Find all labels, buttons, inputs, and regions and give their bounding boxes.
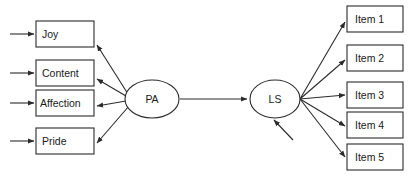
path-diagram-canvas: Joy Content Affection Pride PA LS Item 1: [0, 0, 415, 177]
indicator-box-item-1[interactable]: Item 1: [347, 6, 403, 32]
indicator-box-pride[interactable]: Pride: [36, 128, 94, 154]
loading-arrow-pa-pride: [97, 106, 129, 143]
latent-label-ls: LS: [269, 93, 282, 105]
latent-node-pa[interactable]: PA: [125, 80, 179, 118]
loading-arrow-pa-affection: [97, 101, 126, 106]
indicator-box-item-5[interactable]: Item 5: [347, 144, 403, 170]
indicator-box-item-3[interactable]: Item 3: [347, 82, 403, 108]
indicator-box-item-2[interactable]: Item 2: [347, 45, 403, 71]
indicator-label-affection: Affection: [40, 97, 81, 109]
indicator-label-item-2: Item 2: [355, 52, 384, 64]
loading-arrow-pa-joy: [97, 45, 128, 94]
disturbance-arrow-ls: [274, 120, 293, 140]
indicator-label-item-4: Item 4: [355, 119, 384, 131]
indicator-label-item-3: Item 3: [355, 89, 384, 101]
loading-arrow-ls-item-4: [300, 99, 345, 126]
indicator-box-affection[interactable]: Affection: [36, 90, 94, 116]
indicator-box-item-4[interactable]: Item 4: [347, 112, 403, 138]
indicator-label-content: Content: [42, 67, 79, 79]
error-arrow-group-left: [10, 34, 34, 141]
indicator-label-joy: Joy: [42, 28, 59, 40]
loading-arrow-pa-content: [97, 79, 126, 96]
loading-arrow-ls-item-5: [300, 99, 345, 157]
latent-label-pa: PA: [145, 93, 158, 105]
indicator-label-item-5: Item 5: [355, 151, 384, 163]
indicator-label-pride: Pride: [42, 135, 67, 147]
latent-node-ls[interactable]: LS: [250, 80, 300, 118]
indicator-box-joy[interactable]: Joy: [36, 21, 94, 47]
loading-arrow-ls-item-3: [300, 95, 345, 99]
loading-arrow-group-ls: [300, 22, 345, 157]
indicator-box-content[interactable]: Content: [36, 60, 94, 86]
loading-arrow-ls-item-1: [300, 22, 345, 99]
loading-arrow-group-pa: [97, 45, 129, 143]
indicator-label-item-1: Item 1: [355, 13, 384, 25]
sem-path-diagram: Joy Content Affection Pride PA LS Item 1: [0, 0, 415, 177]
loading-arrow-ls-item-2: [300, 60, 345, 99]
